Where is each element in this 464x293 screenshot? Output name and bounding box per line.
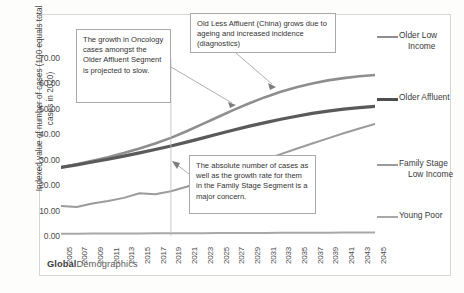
legend-label: Older Affluent [399, 92, 464, 103]
x-tick: 2043 [363, 247, 372, 264]
chart-screenshot: Indexed value of number of cases (100 eq… [0, 0, 464, 293]
x-tick: 2025 [222, 247, 231, 264]
legend-label: Family Stage Low Income [399, 158, 464, 179]
x-tick: 2035 [300, 247, 309, 264]
y-tick: 60.00 [14, 79, 60, 88]
y-axis-ticks: 70.00 60.00 50.00 40.00 30.00 20.00 10.0… [8, 0, 60, 293]
annotation-china: Old Less Affluent (China) grows due to a… [190, 13, 336, 53]
legend-label: Older Low Income [399, 30, 464, 51]
y-tick: 40.00 [14, 130, 60, 139]
x-tick: 2045 [379, 247, 388, 264]
legend-swatch [377, 164, 398, 166]
annotation-oncology: The growth in Oncology cases amongst the… [76, 29, 171, 103]
x-tick: 2019 [174, 247, 183, 264]
y-tick: 10.00 [14, 207, 60, 216]
brand-rest: Demographics [77, 259, 138, 269]
x-tick: 2033 [284, 247, 293, 264]
x-tick: 2037 [316, 247, 325, 264]
legend-swatch [377, 98, 398, 101]
brand-bold: Global [47, 259, 77, 269]
brand-global-demographics: GlobalDemographics [47, 259, 138, 269]
annotation-family: The absolute number of cases as well as … [189, 155, 316, 214]
legend-label: Young Poor [399, 210, 464, 221]
x-tick: 2023 [206, 247, 215, 264]
y-tick: 30.00 [14, 156, 60, 165]
x-tick: 2015 [143, 247, 152, 264]
y-tick: 50.00 [14, 105, 60, 114]
x-tick: 2041 [347, 247, 356, 264]
x-tick: 2039 [331, 247, 340, 264]
x-tick: 2027 [237, 247, 246, 264]
x-tick: 2021 [190, 247, 199, 264]
y-tick: 70.00 [14, 54, 60, 63]
y-tick: 20.00 [14, 181, 60, 190]
legend-swatch [377, 36, 398, 38]
x-tick: 2017 [159, 247, 168, 264]
x-tick: 2031 [269, 247, 278, 264]
legend-swatch [377, 216, 398, 218]
series-line-young-poor [61, 232, 375, 233]
y-tick: 0.00 [14, 232, 60, 241]
x-tick: 2029 [253, 247, 262, 264]
